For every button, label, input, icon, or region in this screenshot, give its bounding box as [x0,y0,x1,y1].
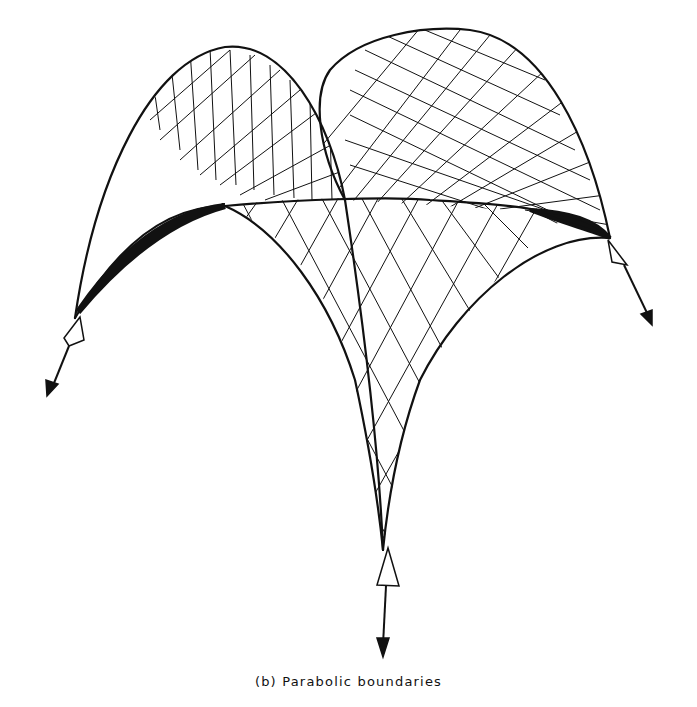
shell-outline [75,29,610,550]
right-support [608,240,652,325]
left-support-arrow [46,380,58,396]
figure-caption: (b) Parabolic boundaries [0,674,697,689]
front-mesh-hatching [170,195,620,590]
right-support-arrow [641,310,652,325]
front-support [377,548,399,657]
right-edge-shading [530,210,610,238]
right-lobe-hatching [310,28,610,240]
shell-diagram [0,0,697,707]
left-edge-shading [78,206,225,312]
front-support-arrow [377,638,389,657]
left-support [46,317,84,396]
